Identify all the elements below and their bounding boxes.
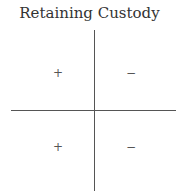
horizontal-axis: [11, 110, 176, 111]
diagram-title: Retaining Custody: [0, 4, 179, 22]
top-right-sign: −: [121, 67, 141, 79]
bottom-left-sign: +: [48, 141, 68, 153]
bottom-right-sign: −: [121, 141, 141, 153]
top-left-sign: +: [48, 67, 68, 79]
